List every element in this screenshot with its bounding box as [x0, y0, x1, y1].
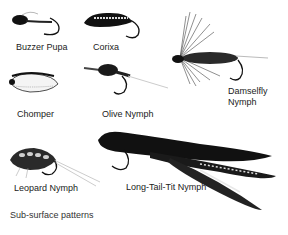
- figure-caption: Sub-surface patterns: [10, 210, 94, 220]
- label-chomper: Chomper: [17, 109, 54, 120]
- long-tail-tit-nymph-illustration: [98, 132, 276, 210]
- label-damselfly-nymph-line2: Nymph: [228, 97, 257, 108]
- olive-nymph-illustration: [84, 64, 168, 94]
- label-long-tail-tit-nymph: Long-Tail-Tit Nymph: [126, 182, 206, 193]
- label-leopard-nymph: Leopard Nymph: [14, 183, 78, 194]
- chomper-illustration: [9, 73, 58, 92]
- buzzer-pupa-illustration: [12, 12, 59, 34]
- label-buzzer-pupa: Buzzer Pupa: [16, 42, 68, 53]
- label-damselfly-nymph-line1: Damselfly: [228, 86, 268, 97]
- label-corixa: Corixa: [93, 42, 119, 53]
- corixa-illustration: [84, 13, 139, 38]
- damselfly-nymph-illustration: [172, 12, 268, 86]
- label-olive-nymph: Olive Nymph: [102, 109, 154, 120]
- leopard-nymph-illustration: [10, 148, 100, 186]
